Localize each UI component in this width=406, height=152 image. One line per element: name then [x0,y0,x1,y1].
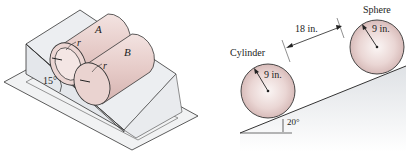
label-cylinder-a: A [95,24,102,35]
label-separation: 18 in. [295,24,318,34]
label-cylinder-b: B [124,47,131,58]
label-radius-b: r [103,61,107,71]
label-cylinder-radius: 9 in. [264,70,282,80]
diagram-canvas [0,0,406,152]
label-sphere: Sphere [363,5,391,15]
right-figure [240,18,406,152]
label-sphere-radius: 9 in. [372,24,390,34]
label-cylinder: Cylinder [230,48,265,58]
label-radius-a: r [77,38,81,48]
dimension-tick-left [282,40,290,62]
label-angle-15: 15° [43,76,57,86]
label-angle-20: 20° [287,118,300,127]
